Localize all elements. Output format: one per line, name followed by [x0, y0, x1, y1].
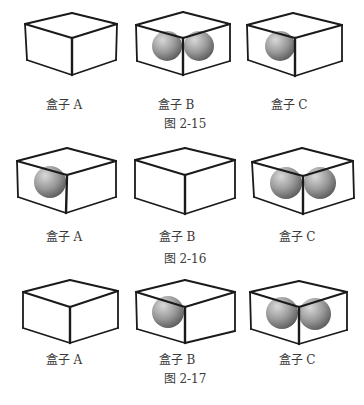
figure-caption: 图 2-17	[164, 369, 207, 386]
box-label-c: 盒子 C	[279, 227, 316, 244]
box-label-a: 盒子 A	[46, 95, 82, 112]
box-c-figure-3	[250, 281, 347, 344]
figure-caption: 图 2-16	[164, 249, 207, 266]
box-label-b: 盒子 B	[159, 350, 196, 367]
box-b-figure-1	[136, 12, 230, 75]
box-label-a: 盒子 A	[46, 227, 82, 244]
box-a-figure-1	[25, 13, 117, 75]
box-a-figure-3	[23, 280, 118, 343]
box-label-c: 盒子 C	[271, 95, 308, 112]
box-label-a: 盒子 A	[46, 350, 82, 367]
box-b-figure-3	[136, 280, 235, 343]
box-label-b: 盒子 B	[159, 227, 196, 244]
ball-icon	[265, 31, 295, 61]
box-label-b: 盒子 B	[158, 95, 195, 112]
box-a-figure-2	[17, 148, 116, 213]
figure-caption: 图 2-15	[164, 114, 207, 131]
box-c-figure-1	[247, 13, 342, 76]
box-c-figure-2	[252, 148, 354, 214]
box-b-figure-2	[135, 148, 235, 214]
diagram-canvas	[0, 0, 364, 405]
box-label-c: 盒子 C	[279, 350, 316, 367]
